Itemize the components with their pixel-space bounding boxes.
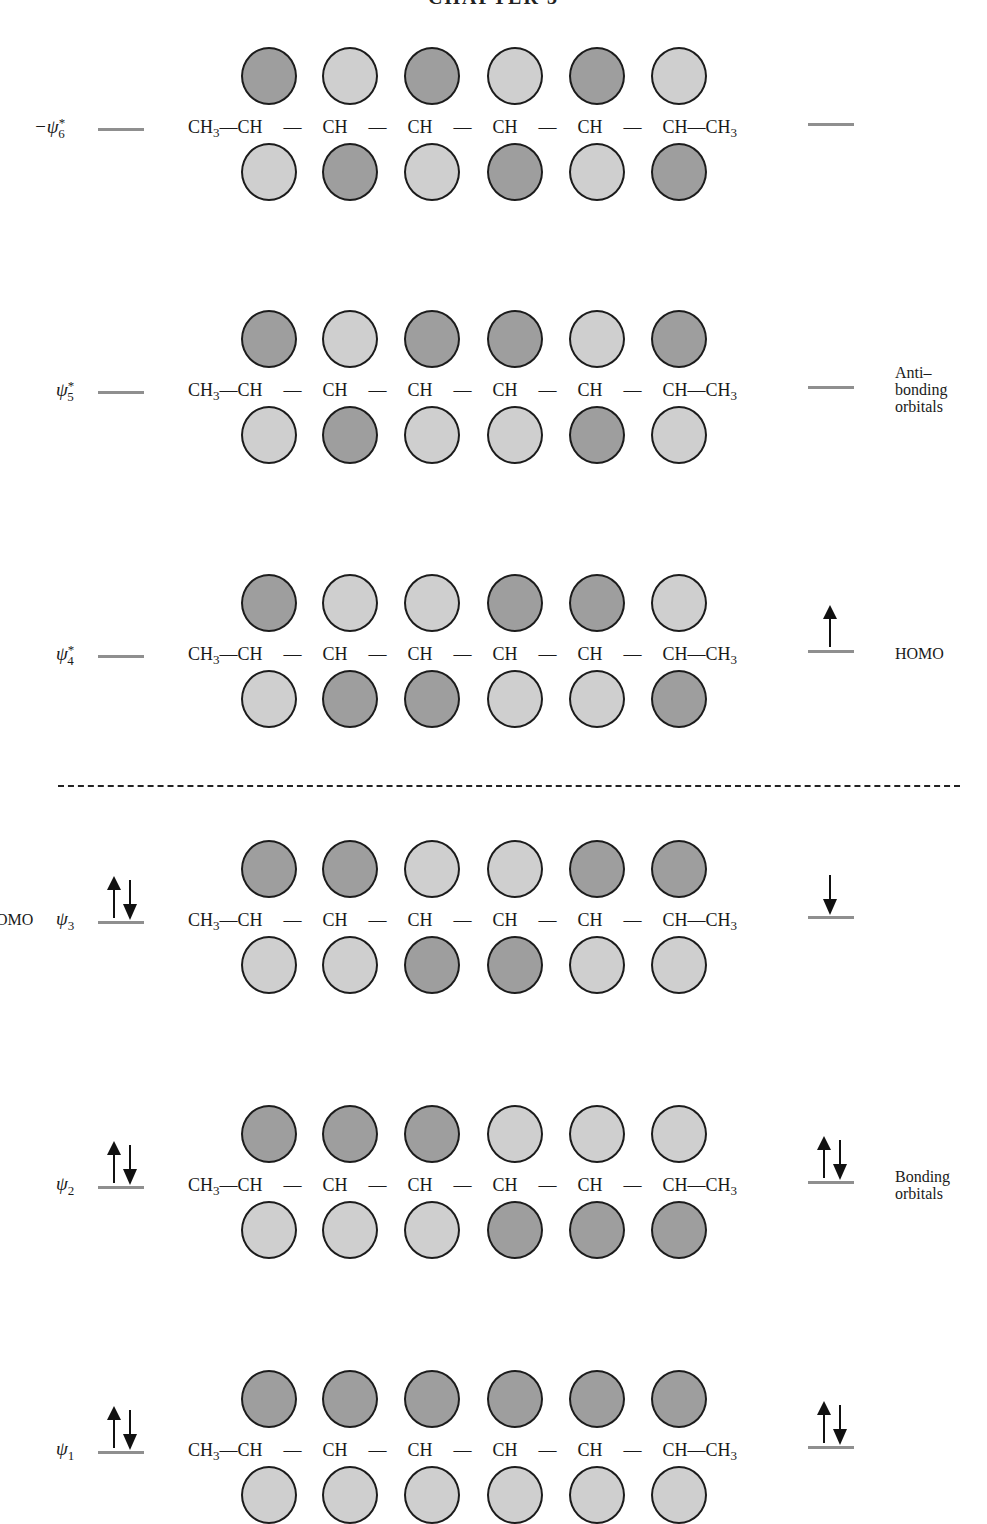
p-orbital-lobe-top bbox=[404, 47, 460, 105]
p-orbital-lobe-top bbox=[322, 1370, 378, 1428]
p-orbital-lobe-bottom bbox=[651, 1466, 707, 1524]
p-orbital-lobe-bottom bbox=[322, 406, 378, 464]
p-orbital-lobe-bottom bbox=[651, 936, 707, 994]
carbon-chain: CH3—CH — CH — CH — CH — CH — CH—CH3 bbox=[188, 381, 737, 402]
p-orbital-lobe-bottom bbox=[241, 143, 297, 201]
electron-pair-arrow-icon bbox=[106, 874, 138, 926]
p-orbital-lobe-bottom bbox=[569, 1201, 625, 1259]
p-orbital-lobe-bottom bbox=[241, 936, 297, 994]
p-orbital-lobe-top bbox=[487, 1370, 543, 1428]
p-orbital-lobe-bottom bbox=[487, 406, 543, 464]
p-orbital-lobe-bottom bbox=[322, 1201, 378, 1259]
electron-pair-arrow-icon bbox=[106, 1404, 138, 1456]
p-orbital-lobe-top bbox=[404, 840, 460, 898]
carbon-chain: CH3—CH — CH — CH — CH — CH — CH—CH3 bbox=[188, 118, 737, 139]
p-orbital-lobe-bottom bbox=[322, 936, 378, 994]
p-orbital-lobe-bottom bbox=[487, 670, 543, 728]
electron-pair-arrow-icon bbox=[816, 1134, 848, 1186]
p-orbital-lobe-bottom bbox=[487, 1201, 543, 1259]
p-orbital-lobe-top bbox=[322, 310, 378, 368]
orbital-label: ψ1 bbox=[56, 1438, 74, 1464]
p-orbital-lobe-top bbox=[651, 310, 707, 368]
p-orbital-lobe-top bbox=[404, 310, 460, 368]
energy-level-right bbox=[808, 386, 854, 389]
p-orbital-lobe-top bbox=[569, 1370, 625, 1428]
p-orbital-lobe-bottom bbox=[569, 1466, 625, 1524]
electron-up-arrow-icon bbox=[822, 603, 842, 655]
p-orbital-lobe-bottom bbox=[404, 1466, 460, 1524]
p-orbital-lobe-top bbox=[322, 840, 378, 898]
p-orbital-lobe-bottom bbox=[404, 406, 460, 464]
p-orbital-lobe-top bbox=[651, 1105, 707, 1163]
p-orbital-lobe-top bbox=[322, 574, 378, 632]
p-orbital-lobe-bottom bbox=[487, 143, 543, 201]
p-orbital-lobe-top bbox=[569, 310, 625, 368]
p-orbital-lobe-bottom bbox=[241, 1201, 297, 1259]
p-orbital-lobe-top bbox=[487, 1105, 543, 1163]
p-orbital-lobe-bottom bbox=[651, 143, 707, 201]
p-orbital-lobe-top bbox=[569, 1105, 625, 1163]
homo-label-left: OMO bbox=[0, 911, 33, 928]
orbital-label: ψ3 bbox=[56, 908, 74, 934]
orbital-label: −ψ*6 bbox=[34, 115, 65, 142]
p-orbital-lobe-bottom bbox=[651, 1201, 707, 1259]
p-orbital-lobe-top bbox=[487, 310, 543, 368]
p-orbital-lobe-bottom bbox=[322, 143, 378, 201]
p-orbital-lobe-bottom bbox=[404, 936, 460, 994]
p-orbital-lobe-top bbox=[569, 840, 625, 898]
p-orbital-lobe-bottom bbox=[404, 1201, 460, 1259]
p-orbital-lobe-top bbox=[651, 840, 707, 898]
p-orbital-lobe-top bbox=[241, 1370, 297, 1428]
carbon-chain: CH3—CH — CH — CH — CH — CH — CH—CH3 bbox=[188, 1176, 737, 1197]
p-orbital-lobe-top bbox=[404, 1105, 460, 1163]
p-orbital-lobe-bottom bbox=[569, 406, 625, 464]
p-orbital-lobe-bottom bbox=[241, 406, 297, 464]
p-orbital-lobe-bottom bbox=[487, 1466, 543, 1524]
orbital-group-label: HOMO bbox=[895, 645, 944, 662]
carbon-chain: CH3—CH — CH — CH — CH — CH — CH—CH3 bbox=[188, 645, 737, 666]
p-orbital-lobe-top bbox=[487, 574, 543, 632]
energy-level-left bbox=[98, 128, 144, 131]
p-orbital-lobe-bottom bbox=[651, 670, 707, 728]
p-orbital-lobe-bottom bbox=[487, 936, 543, 994]
p-orbital-lobe-top bbox=[241, 574, 297, 632]
p-orbital-lobe-top bbox=[241, 310, 297, 368]
p-orbital-lobe-bottom bbox=[569, 670, 625, 728]
p-orbital-lobe-bottom bbox=[404, 143, 460, 201]
p-orbital-lobe-top bbox=[322, 47, 378, 105]
carbon-chain: CH3—CH — CH — CH — CH — CH — CH—CH3 bbox=[188, 911, 737, 932]
p-orbital-lobe-top bbox=[569, 47, 625, 105]
p-orbital-lobe-top bbox=[241, 1105, 297, 1163]
electron-pair-arrow-icon bbox=[106, 1139, 138, 1191]
p-orbital-lobe-top bbox=[404, 574, 460, 632]
p-orbital-lobe-bottom bbox=[569, 143, 625, 201]
energy-level-left bbox=[98, 391, 144, 394]
p-orbital-lobe-top bbox=[241, 840, 297, 898]
p-orbital-lobe-bottom bbox=[322, 1466, 378, 1524]
p-orbital-lobe-top bbox=[569, 574, 625, 632]
p-orbital-lobe-top bbox=[651, 1370, 707, 1428]
p-orbital-lobe-top bbox=[651, 47, 707, 105]
electron-pair-arrow-icon bbox=[816, 1399, 848, 1451]
orbital-label: ψ*4 bbox=[56, 642, 74, 669]
p-orbital-lobe-top bbox=[322, 1105, 378, 1163]
p-orbital-lobe-bottom bbox=[569, 936, 625, 994]
p-orbital-lobe-bottom bbox=[651, 406, 707, 464]
orbital-group-label: Bonding orbitals bbox=[895, 1168, 950, 1202]
p-orbital-lobe-bottom bbox=[241, 1466, 297, 1524]
carbon-chain: CH3—CH — CH — CH — CH — CH — CH—CH3 bbox=[188, 1441, 737, 1462]
p-orbital-lobe-top bbox=[241, 47, 297, 105]
p-orbital-lobe-top bbox=[487, 47, 543, 105]
p-orbital-lobe-bottom bbox=[322, 670, 378, 728]
energy-level-left bbox=[98, 655, 144, 658]
electron-down-arrow-icon bbox=[822, 869, 842, 921]
energy-level-right bbox=[808, 123, 854, 126]
p-orbital-lobe-top bbox=[487, 840, 543, 898]
orbital-group-label: Anti– bonding orbitals bbox=[895, 364, 947, 415]
orbital-label: ψ*5 bbox=[56, 378, 74, 405]
chapter-header: CHAPTER 3 bbox=[0, 0, 987, 9]
p-orbital-lobe-bottom bbox=[241, 670, 297, 728]
p-orbital-lobe-top bbox=[651, 574, 707, 632]
homo-lumo-divider bbox=[58, 785, 960, 787]
orbital-label: ψ2 bbox=[56, 1173, 74, 1199]
